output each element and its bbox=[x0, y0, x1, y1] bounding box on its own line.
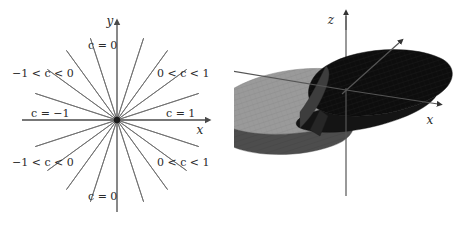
y-axis-label: y bbox=[106, 14, 114, 28]
origin-dot bbox=[114, 117, 120, 123]
label-right-c-1: c = 1 bbox=[166, 107, 195, 120]
contour-panel: x y c = 0 c = 0 c = −1 c = 1 −1 < c < 0 … bbox=[0, 0, 234, 230]
surface-panel: z x bbox=[234, 0, 468, 230]
surface-svg: z x bbox=[234, 0, 468, 230]
contour-svg: x y c = 0 c = 0 c = −1 c = 1 −1 < c < 0 … bbox=[0, 0, 234, 230]
figure-root: x y c = 0 c = 0 c = −1 c = 1 −1 < c < 0 … bbox=[0, 0, 468, 230]
z-axis-label: z bbox=[327, 13, 335, 27]
label-lower-left-range: −1 < c < 0 bbox=[12, 156, 74, 169]
x-axis-label: x bbox=[427, 113, 434, 127]
label-top-c0: c = 0 bbox=[88, 39, 117, 52]
label-left-c-neg1: c = −1 bbox=[31, 107, 70, 120]
x-axis-label: x bbox=[197, 123, 204, 137]
label-upper-right-range: 0 < c < 1 bbox=[157, 67, 210, 80]
label-upper-left-range: −1 < c < 0 bbox=[12, 67, 74, 80]
label-lower-right-range: 0 < c < 1 bbox=[157, 156, 210, 169]
label-bottom-c0: c = 0 bbox=[88, 190, 117, 203]
